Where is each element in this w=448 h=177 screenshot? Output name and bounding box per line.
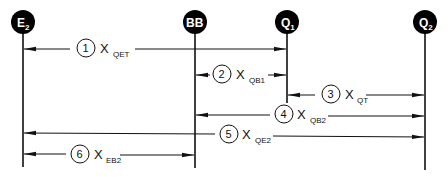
node-e2: E2 — [11, 10, 35, 34]
svg-text:5: 5 — [226, 128, 232, 140]
dimension-6-eb2: 6 X EB2 — [24, 145, 194, 165]
svg-text:X: X — [345, 87, 354, 102]
svg-text:X: X — [236, 67, 245, 82]
svg-text:6: 6 — [77, 148, 83, 160]
svg-text:2: 2 — [219, 68, 225, 80]
dimension-5-qe2: 5 X QE2 — [24, 125, 424, 145]
svg-text:QE2: QE2 — [255, 136, 272, 145]
svg-text:3: 3 — [328, 88, 334, 100]
dimension-1-qet: 1 X QET — [24, 39, 286, 59]
svg-text:X: X — [100, 41, 109, 56]
svg-text:X: X — [242, 127, 251, 142]
svg-text:BB: BB — [186, 16, 204, 30]
node-bb: BB — [183, 10, 207, 34]
svg-text:QB1: QB1 — [249, 76, 266, 85]
dimension-4-qb2: 4 X QB2 — [196, 105, 424, 125]
svg-text:EB2: EB2 — [106, 156, 122, 165]
svg-text:1: 1 — [83, 42, 89, 54]
distance-diagram: E2 BB Q1 Q2 1 X QET 2 X QB1 3 X QT — [0, 0, 448, 177]
dimension-2-qb1: 2 X QB1 — [196, 65, 286, 85]
svg-text:QET: QET — [113, 50, 130, 59]
svg-text:X: X — [297, 107, 306, 122]
svg-text:X: X — [94, 147, 103, 162]
node-q1: Q1 — [275, 10, 299, 34]
svg-text:QT: QT — [357, 96, 368, 105]
dimension-3-qt: 3 X QT — [288, 85, 424, 105]
svg-text:4: 4 — [281, 108, 287, 120]
node-q2: Q2 — [413, 10, 437, 34]
svg-text:QB2: QB2 — [310, 116, 327, 125]
